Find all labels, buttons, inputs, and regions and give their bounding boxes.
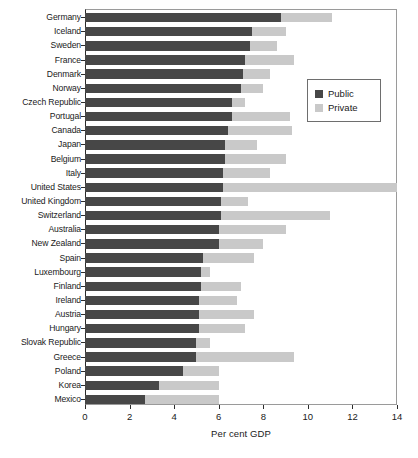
category-label: Mexico [0,394,81,404]
category-label: France [0,55,81,65]
category-label: Australia [0,224,81,234]
x-axis-tick-label: 6 [216,411,221,423]
category-label: New Zealand [0,238,81,248]
bars-container [85,9,397,405]
legend-swatch-private [315,104,323,112]
bar-segment-private [241,84,263,94]
bar-segment-private [225,154,285,164]
bar-segment-private [252,27,285,37]
bar-row [85,282,241,292]
bar-segment-public [85,310,199,320]
category-label: Norway [0,83,81,93]
bar-row [85,69,270,79]
category-label: Japan [0,139,81,149]
category-label: Portugal [0,111,81,121]
bar-segment-private [196,338,209,348]
bar-segment-private [223,183,397,193]
category-label: Austria [0,309,81,319]
bar-segment-private [199,310,255,320]
bar-segment-private [250,41,277,51]
category-label: Finland [0,281,81,291]
bar-row [85,225,286,235]
bar-chart: GermanyIcelandSwedenFranceDenmarkNorwayC… [0,0,418,458]
bar-segment-public [85,41,250,51]
x-axis-tick-label: 14 [392,411,403,423]
bar-segment-public [85,211,221,221]
category-label: Ireland [0,295,81,305]
bar-segment-public [85,168,223,178]
bar-segment-private [228,126,293,136]
bar-segment-public [85,225,219,235]
legend-label-public: Public [328,88,354,99]
category-label: Germany [0,12,81,22]
bar-segment-public [85,267,201,277]
bar-row [85,168,270,178]
bar-segment-public [85,140,225,150]
bar-row [85,296,237,306]
bar-row [85,13,332,23]
bar-segment-public [85,84,241,94]
category-label: Sweden [0,40,81,50]
bar-segment-private [225,140,256,150]
bar-segment-private [219,239,264,249]
category-label: Hungary [0,323,81,333]
bar-segment-private [221,197,248,207]
bar-segment-public [85,338,196,348]
bar-segment-private [199,296,237,306]
bar-segment-private [221,211,330,221]
category-label: Iceland [0,26,81,36]
x-axis-tick-label: 12 [347,411,358,423]
x-axis-tick-label: 4 [171,411,176,423]
bar-row [85,324,245,334]
bar-segment-public [85,324,199,334]
x-axis-tick [397,405,398,409]
category-label: United Kingdom [0,196,81,206]
bar-row [85,84,263,94]
bar-row [85,41,277,51]
bar-segment-public [85,126,228,136]
bar-row [85,197,248,207]
bar-row [85,381,219,391]
bar-row [85,126,292,136]
bar-segment-private [243,69,270,79]
bar-segment-public [85,197,221,207]
category-label: Switzerland [0,210,81,220]
category-label: Poland [0,366,81,376]
bar-row [85,267,210,277]
bar-row [85,366,219,376]
bar-segment-public [85,69,243,79]
bar-row [85,154,286,164]
bar-row [85,239,263,249]
category-label: Luxembourg [0,267,81,277]
bar-row [85,395,219,405]
bar-row [85,338,210,348]
bar-row [85,98,245,108]
category-label: Denmark [0,69,81,79]
category-label: Korea [0,380,81,390]
category-label: Belgium [0,154,81,164]
bar-segment-public [85,282,201,292]
bar-segment-public [85,98,232,108]
bar-segment-public [85,183,223,193]
x-axis-tick-label: 2 [127,411,132,423]
legend-label-private: Private [328,102,358,113]
category-label: Czech Republic [0,97,81,107]
bar-segment-private [159,381,219,391]
bar-row [85,211,330,221]
bar-row [85,140,257,150]
x-axis-tick [308,405,309,409]
bar-row [85,27,286,37]
legend-swatch-public [315,90,323,98]
category-axis: GermanyIcelandSwedenFranceDenmarkNorwayC… [0,9,81,405]
bar-segment-private [145,395,219,405]
bar-segment-private [232,112,290,122]
bar-segment-public [85,352,196,362]
bar-segment-private [232,98,245,108]
legend-item-public: Public [315,88,374,99]
bar-segment-private [196,352,294,362]
chart-legend: Public Private [307,79,381,122]
bar-segment-private [199,324,246,334]
bar-segment-public [85,154,225,164]
x-axis-tick [263,405,264,409]
bar-segment-private [281,13,332,23]
